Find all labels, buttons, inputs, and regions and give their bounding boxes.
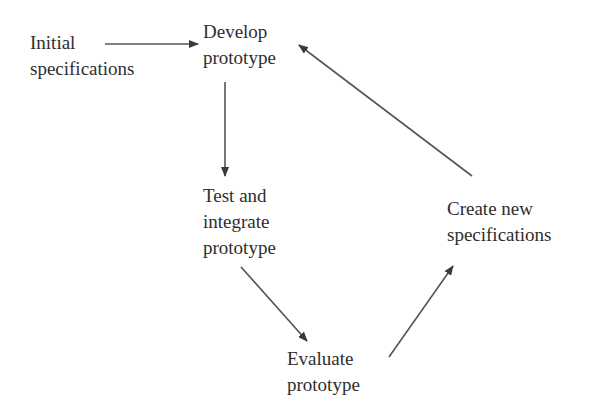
- node-label-line: specifications: [30, 56, 134, 82]
- diagram-canvas: Initial specifications Develop prototype…: [0, 0, 593, 420]
- node-develop-prototype: Develop prototype: [203, 19, 276, 71]
- node-label-line: prototype: [287, 372, 360, 398]
- node-label-line: Test and: [203, 183, 276, 209]
- node-label-line: specifications: [447, 222, 551, 248]
- arrow-create-to-develop: [299, 45, 472, 176]
- node-label-line: Create new: [447, 196, 551, 222]
- node-label-line: Initial: [30, 30, 134, 56]
- node-label-line: Evaluate: [287, 346, 360, 372]
- node-label-line: prototype: [203, 235, 276, 261]
- node-create-new-specifications: Create new specifications: [447, 196, 551, 248]
- node-label-line: prototype: [203, 45, 276, 71]
- node-initial-specifications: Initial specifications: [30, 30, 134, 82]
- node-evaluate-prototype: Evaluate prototype: [287, 346, 360, 398]
- node-label-line: Develop: [203, 19, 276, 45]
- arrow-test-to-evaluate: [241, 267, 307, 341]
- node-test-and-integrate-prototype: Test and integrate prototype: [203, 183, 276, 261]
- arrow-evaluate-to-create: [389, 266, 453, 357]
- node-label-line: integrate: [203, 209, 276, 235]
